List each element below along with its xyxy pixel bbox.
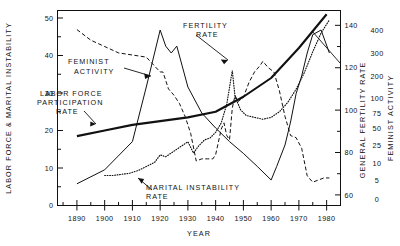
feminist-tick-100: 100: [370, 94, 383, 103]
left-tick-40: 40: [45, 51, 54, 60]
x-tick-1950: 1950: [235, 214, 253, 223]
x-axis-title: YEAR: [187, 229, 211, 238]
feminist-tick-5: 5: [375, 176, 379, 185]
feminist-tick-10: 10: [373, 159, 382, 168]
feminist-tick-75: 75: [373, 109, 382, 118]
feminist-tick-25: 25: [373, 141, 382, 150]
x-tick-1970: 1970: [290, 214, 308, 223]
feminist-tick-400: 400: [370, 26, 383, 35]
annotation-marital-line2: RATE: [146, 192, 169, 201]
annotation-feminist-line2: ACTIVITY: [74, 67, 114, 76]
fertility-tick-140: 140: [345, 21, 358, 30]
annotation-labor-line3: RATE: [56, 107, 79, 116]
annotation-labor-line1: LABOR FORCE: [40, 89, 103, 98]
x-tick-1930: 1930: [179, 214, 197, 223]
feminist-tick-200: 200: [370, 72, 383, 81]
x-tick-1960: 1960: [262, 214, 280, 223]
annotation-feminist-line1: FEMINIST: [68, 57, 110, 66]
feminist-axis-title: FEMINIST ACTIVITY: [386, 75, 395, 161]
fertility-tick-60: 60: [345, 191, 354, 200]
left-tick-0: 0: [49, 201, 53, 210]
annotation-fertility-line2: RATE: [196, 30, 219, 39]
x-tick-1980: 1980: [318, 214, 336, 223]
annotation-marital-line1: MARITAL INSTABILITY: [146, 183, 240, 192]
fertility-axis-title: GENERAL FERTILITY RATE: [358, 62, 367, 179]
left-tick-50: 50: [45, 14, 54, 23]
x-tick-1920: 1920: [151, 214, 169, 223]
chart-figure: 01020304050 1890190019101920193019401950…: [0, 0, 400, 246]
x-tick-1910: 1910: [124, 214, 142, 223]
annotation-fertility-line1: FERTILITY: [183, 21, 228, 30]
x-tick-1890: 1890: [68, 214, 86, 223]
x-tick-1940: 1940: [207, 214, 225, 223]
feminist-tick-50: 50: [373, 124, 382, 133]
left-tick-20: 20: [45, 126, 54, 135]
x-tick-1900: 1900: [96, 214, 114, 223]
feminist-tick-0: 0: [375, 195, 379, 204]
left-tick-10: 10: [45, 164, 54, 173]
fertility-tick-100: 100: [345, 106, 358, 115]
annotation-labor-line2: PARTICIPATION: [37, 98, 103, 107]
feminist-tick-300: 300: [370, 49, 383, 58]
fertility-tick-120: 120: [345, 63, 358, 72]
left-axis-title: LABOR FORCE & MARITAL INSTABILITY: [4, 22, 13, 194]
fertility-tick-80: 80: [345, 148, 354, 157]
chart-svg: 01020304050 1890190019101920193019401950…: [0, 0, 400, 246]
